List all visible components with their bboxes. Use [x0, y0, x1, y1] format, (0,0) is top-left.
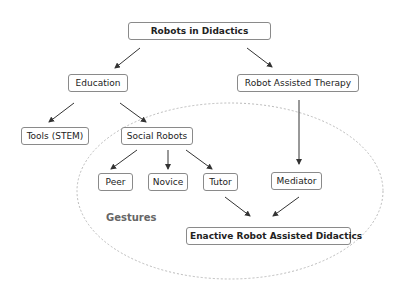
node-tutor: Tutor — [203, 173, 238, 191]
node-education: Education — [68, 74, 128, 92]
arrow-root-therapy — [247, 48, 272, 67]
arrow-tutor-enactive — [225, 197, 250, 216]
gestures-label: Gestures — [106, 212, 157, 223]
arrow-mediator-enactive — [273, 197, 299, 216]
arrow-education-social — [120, 103, 146, 122]
arrow-social-peer — [111, 150, 137, 169]
node-social-robots: Social Robots — [121, 127, 193, 145]
arrow-education-tools — [49, 103, 74, 122]
node-robots-in-didactics: Robots in Didactics — [128, 22, 271, 40]
node-novice: Novice — [148, 173, 188, 191]
arrow-root-education — [115, 48, 140, 68]
node-tools-stem: Tools (STEM) — [21, 127, 89, 145]
node-enactive-robot-assisted-didactics: Enactive Robot Assisted Didactics — [186, 227, 351, 245]
node-robot-assisted-therapy: Robot Assisted Therapy — [237, 74, 359, 92]
node-peer: Peer — [98, 173, 133, 191]
node-mediator: Mediator — [271, 172, 322, 190]
arrow-social-tutor — [186, 150, 212, 169]
